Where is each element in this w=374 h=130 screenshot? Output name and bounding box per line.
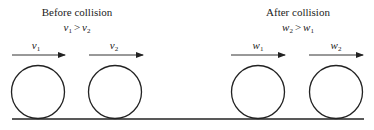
after-condition: w2>w1 (282, 21, 314, 35)
ball-2-after (310, 66, 363, 119)
before-condition: v1>v2 (64, 21, 92, 35)
after-collision-title: After collision (266, 6, 330, 18)
ball-2-before (89, 66, 142, 119)
velocity-label-w1: w1 (253, 39, 264, 53)
before-collision-title: Before collision (42, 6, 113, 18)
velocity-label-v2: v2 (110, 39, 119, 53)
velocity-label-v1: v1 (32, 39, 41, 53)
ball-1-after (232, 66, 285, 119)
ball-1-before (12, 66, 65, 119)
velocity-label-w2: w2 (331, 39, 342, 53)
collision-diagram: Before collision v1>v2 After collision w… (0, 0, 374, 130)
